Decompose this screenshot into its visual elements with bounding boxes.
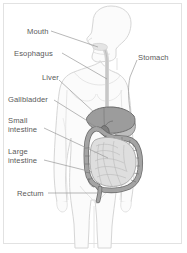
rectum-organ	[98, 188, 100, 201]
label-mouth: Mouth	[27, 28, 49, 37]
diagram-canvas: Mouth Esophagus Liver Gallbladder Small …	[0, 0, 187, 253]
label-liver: Liver	[42, 74, 59, 83]
label-esophagus: Esophagus	[14, 50, 53, 59]
label-gallbladder: Gallbladder	[8, 96, 48, 105]
hand-left	[57, 200, 68, 212]
label-small-intestine: Small intestine	[8, 117, 37, 134]
label-stomach: Stomach	[138, 54, 169, 63]
label-large-intestine: Large intestine	[8, 148, 37, 165]
hand-right	[121, 200, 132, 212]
head-outline	[87, 6, 131, 62]
small-intestine-mass	[90, 137, 136, 186]
label-rectum: Rectum	[17, 190, 44, 199]
mouth-cavity	[93, 43, 107, 50]
small-intestine-organ	[90, 137, 136, 186]
